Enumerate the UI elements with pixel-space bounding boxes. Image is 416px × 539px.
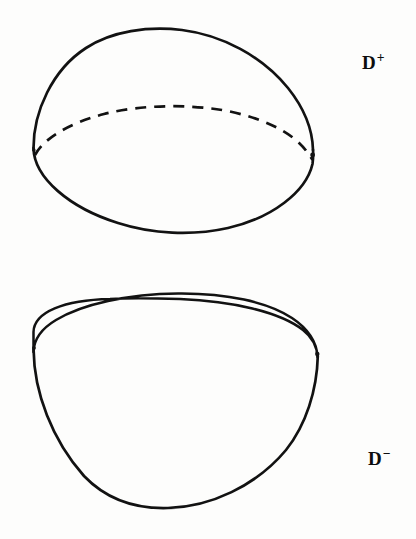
upper-equator-front-arc bbox=[34, 148, 314, 233]
label-d-minus: D− bbox=[368, 449, 391, 468]
lower-rim-ellipse bbox=[34, 293, 318, 357]
lower-right-junction-mark bbox=[315, 352, 319, 356]
upper-hemisphere-group bbox=[32, 29, 315, 233]
upper-equator-back-arc-dashed bbox=[35, 106, 313, 160]
label-d-plus-superscript: + bbox=[377, 50, 385, 65]
figure-canvas: D+ D− bbox=[0, 0, 416, 539]
label-d-minus-base: D bbox=[368, 448, 382, 469]
label-d-plus-base: D bbox=[362, 52, 376, 73]
upper-left-junction-mark bbox=[32, 148, 36, 152]
lower-bowl-outline bbox=[34, 350, 318, 508]
lower-hemisphere-group bbox=[32, 293, 319, 508]
label-d-plus: D+ bbox=[362, 53, 385, 72]
upper-right-junction-mark bbox=[310, 153, 315, 158]
upper-dome-outline bbox=[34, 29, 314, 150]
label-d-minus-superscript: − bbox=[383, 446, 391, 461]
hemispheres-diagram bbox=[0, 0, 416, 539]
lower-left-junction-mark bbox=[32, 346, 36, 350]
